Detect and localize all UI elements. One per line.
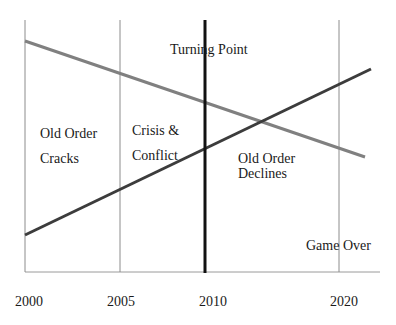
label-game-over: Game Over <box>306 238 371 254</box>
label-declines-2: Declines <box>238 166 287 182</box>
label-crisis-2: Conflict <box>132 148 178 164</box>
label-old-order-cracks-2: Cracks <box>40 151 79 167</box>
label-declines-1: Old Order <box>238 151 295 167</box>
tick-2010: 2010 <box>199 294 227 310</box>
label-crisis-1: Crisis & <box>132 123 179 139</box>
tick-2005: 2005 <box>107 294 135 310</box>
tick-2000: 2000 <box>15 294 43 310</box>
tick-2020: 2020 <box>330 294 358 310</box>
label-old-order-cracks-1: Old Order <box>40 126 97 142</box>
label-turning-point: Turning Point <box>170 42 248 58</box>
